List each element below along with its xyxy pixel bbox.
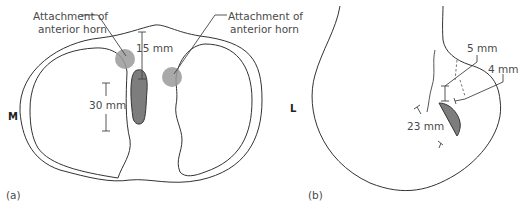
dimension-5mm [441, 55, 477, 101]
measure-23mm: 23 mm [407, 120, 444, 132]
inner-contour [427, 50, 435, 112]
callout-right-line2: anterior horn [230, 23, 299, 35]
measure-15mm: 15 mm [136, 42, 173, 54]
anterior-horn-attachment-lateral [162, 67, 182, 87]
dimension-23mm-top [414, 105, 421, 114]
anterior-horn-attachment-medial [115, 49, 135, 69]
measure-5mm: 5 mm [467, 42, 497, 54]
lateral-label: L [290, 103, 297, 114]
measure-30mm: 30 mm [89, 99, 126, 111]
knee-outline [312, 6, 501, 191]
panel-a-label: (a) [6, 189, 21, 201]
dimension-4mm [454, 74, 503, 104]
callout-left-line1: Attachment of [33, 10, 108, 22]
panel-b-label: (b) [308, 189, 323, 201]
measure-4mm: 4 mm [488, 63, 518, 75]
panel-a: Attachment of anterior horn Attachment o… [6, 10, 303, 201]
inner-lateral-outline [176, 44, 252, 176]
shaded-footprint [131, 70, 147, 124]
medial-label: M [8, 111, 18, 122]
callout-right-line1: Attachment of [228, 10, 303, 22]
inner-medial-outline [30, 48, 130, 178]
diagram-canvas: Attachment of anterior horn Attachment o… [0, 0, 521, 209]
dashed-line-2 [460, 80, 465, 96]
panel-b: 5 mm 4 mm 23 mm (b) [308, 6, 518, 201]
callout-left-line2: anterior horn [38, 23, 107, 35]
dimension-23mm-bottom [438, 141, 443, 148]
